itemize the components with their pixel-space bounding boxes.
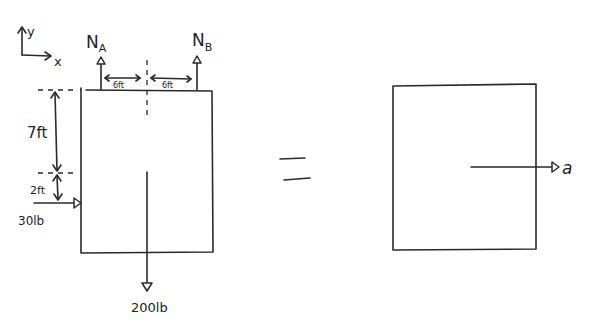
y-axis-label: y [27, 24, 35, 39]
reaction-na-arrow [97, 57, 105, 90]
reaction-nb-label: NB [192, 30, 212, 54]
coordinate-axes: y x [18, 24, 62, 69]
acceleration-label: a [562, 158, 572, 178]
x-axis-line [22, 55, 50, 56]
dimension-2ft-label: 2ft [30, 184, 46, 197]
reaction-nb-arrow [193, 56, 201, 90]
x-axis-label: x [54, 54, 62, 69]
dimension-right-6ft-label: 6ft [162, 81, 173, 90]
weight-arrow [142, 172, 152, 291]
equals-sign [280, 158, 310, 180]
dimension-7ft [51, 92, 61, 171]
kinetic-diagram: a [393, 84, 572, 250]
reaction-na-label: NA [86, 32, 107, 55]
acceleration-arrow [471, 162, 559, 172]
dimension-7ft-label: 7ft [27, 124, 48, 142]
diagram-canvas: y x NA NB 6ft 6ft [0, 0, 598, 325]
dimension-2ft [53, 175, 62, 200]
weight-label: 200lb [131, 300, 168, 315]
free-body-diagram: NA NB 6ft 6ft 7ft [18, 30, 213, 315]
dimension-left-6ft-label: 6ft [113, 81, 124, 90]
applied-force-label: 30lb [18, 214, 44, 228]
